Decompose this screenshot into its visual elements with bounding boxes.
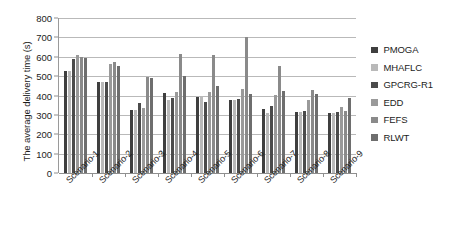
- plot-area: [58, 18, 355, 173]
- bar-group: [59, 18, 92, 173]
- bar-group: [92, 18, 125, 173]
- legend-label: EDD: [384, 97, 404, 108]
- bar: [328, 113, 331, 173]
- x-axis-labels: Scenario-1Scenario-2Scenario-3Scenario-4…: [58, 176, 355, 230]
- y-tick-label-400: 400: [22, 90, 52, 101]
- legend-item-rlwt[interactable]: RLWT: [371, 129, 456, 147]
- y-tick-label-300: 300: [22, 109, 52, 120]
- bar-groups: [59, 18, 356, 173]
- bar: [274, 95, 277, 173]
- bar: [262, 109, 265, 173]
- y-tick-label-200: 200: [22, 129, 52, 140]
- bar: [204, 102, 207, 173]
- legend-item-mhaflc[interactable]: MHAFLC: [371, 59, 456, 77]
- bar: [101, 82, 104, 173]
- bar-group: [224, 18, 257, 173]
- y-tick-label-100: 100: [22, 148, 52, 159]
- y-tick-label-0: 0: [22, 168, 52, 179]
- bar: [229, 100, 232, 173]
- bar: [233, 100, 236, 173]
- bar-group: [257, 18, 290, 173]
- legend-label: RLWT: [384, 132, 410, 143]
- bar: [299, 112, 302, 173]
- x-tick-mark: [356, 173, 357, 177]
- bar: [64, 71, 67, 173]
- bar: [80, 57, 83, 173]
- bar: [167, 100, 170, 173]
- bar: [105, 82, 108, 173]
- bar: [278, 66, 281, 173]
- bar: [270, 106, 273, 173]
- legend-label: GPCRG-R1: [384, 79, 433, 90]
- y-tick-label-800: 800: [22, 13, 52, 24]
- legend-swatch-icon: [371, 117, 378, 124]
- legend-label: MHAFLC: [384, 62, 422, 73]
- bar: [97, 82, 100, 173]
- y-tick-label-600: 600: [22, 51, 52, 62]
- bar: [179, 54, 182, 173]
- bar: [212, 55, 215, 173]
- bar: [113, 62, 116, 173]
- bar: [241, 89, 244, 173]
- bar-group: [158, 18, 191, 173]
- bar-group: [290, 18, 323, 173]
- legend-swatch-icon: [371, 47, 378, 54]
- bar: [237, 99, 240, 173]
- bar: [303, 111, 306, 173]
- bar: [336, 112, 339, 173]
- bar: [332, 113, 335, 173]
- bar: [109, 64, 112, 173]
- bar: [163, 93, 166, 173]
- legend-swatch-icon: [371, 134, 378, 141]
- legend-swatch-icon: [371, 82, 378, 89]
- legend-item-gpcrg-r1[interactable]: GPCRG-R1: [371, 76, 456, 94]
- bar: [266, 113, 269, 173]
- bar-group: [323, 18, 356, 173]
- bar-group: [191, 18, 224, 173]
- legend-swatch-icon: [371, 99, 378, 106]
- y-tick-label-500: 500: [22, 71, 52, 82]
- bar: [208, 92, 211, 173]
- chart-legend: PMOGAMHAFLCGPCRG-R1EDDFEFSRLWT: [371, 41, 456, 146]
- legend-item-fefs[interactable]: FEFS: [371, 111, 456, 129]
- bar: [130, 110, 133, 173]
- bar: [171, 98, 174, 173]
- bar: [134, 110, 137, 173]
- bar: [76, 55, 79, 173]
- legend-swatch-icon: [371, 64, 378, 71]
- bar: [295, 112, 298, 173]
- bar: [72, 59, 75, 173]
- chart-figure: The average delivery time (s) 8007006005…: [0, 0, 456, 230]
- y-tick-label-700: 700: [22, 32, 52, 43]
- bar: [245, 37, 248, 173]
- legend-label: FEFS: [384, 114, 408, 125]
- bar-group: [125, 18, 158, 173]
- legend-item-edd[interactable]: EDD: [371, 94, 456, 112]
- bar: [175, 92, 178, 173]
- bar: [196, 97, 199, 173]
- legend-item-pmoga[interactable]: PMOGA: [371, 41, 456, 59]
- legend-label: PMOGA: [384, 44, 419, 55]
- bar: [138, 103, 141, 173]
- bar: [68, 71, 71, 173]
- bar: [200, 97, 203, 173]
